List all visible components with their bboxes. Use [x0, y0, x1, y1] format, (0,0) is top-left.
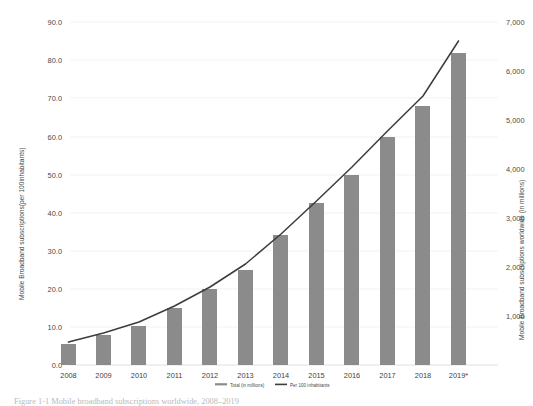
- y2-tick-5000: 5,000: [506, 116, 525, 125]
- y-tick-80: 80.0: [48, 56, 62, 65]
- y-tick-70: 70.0: [48, 94, 62, 103]
- x-tick-2009: 2009: [95, 371, 111, 380]
- bar-2014: [273, 235, 288, 365]
- bar-2013: [238, 270, 253, 365]
- y-tick-90: 90.0: [48, 18, 62, 27]
- bar-series-total: [61, 53, 466, 365]
- x-tick-2017: 2017: [379, 371, 395, 380]
- y-tick-40: 40.0: [48, 209, 62, 218]
- y-tick-20: 20.0: [48, 285, 62, 294]
- x-tick-2013: 2013: [237, 371, 253, 380]
- x-tick-2010: 2010: [131, 371, 147, 380]
- bar-2016: [344, 175, 359, 365]
- y-axis-left-ticks: 90.0 80.0 70.0 60.0 50.0 40.0 30.0 20.0 …: [48, 18, 62, 370]
- chart-legend: Total (in millions) Per 100 inhabitants: [215, 383, 330, 388]
- x-tick-2012: 2012: [202, 371, 218, 380]
- legend-swatch-total: [215, 383, 227, 385]
- y2-tick-4000: 4,000: [506, 165, 525, 174]
- x-tick-2018: 2018: [415, 371, 431, 380]
- x-tick-2011: 2011: [167, 371, 183, 380]
- x-tick-2019: 2019*: [449, 371, 468, 380]
- bar-2010: [131, 326, 146, 365]
- chart-figure: 90.0 80.0 70.0 60.0 50.0 40.0 30.0 20.0 …: [0, 0, 533, 406]
- bar-2015: [309, 203, 324, 365]
- bar-2009: [96, 335, 111, 365]
- bar-2012: [202, 289, 217, 365]
- figure-caption: Figure 1-1 Mobile broadband subscription…: [14, 396, 514, 406]
- bar-2008: [61, 344, 76, 365]
- y-tick-10: 10.0: [48, 323, 62, 332]
- x-tick-2016: 2016: [344, 371, 360, 380]
- legend-label-total: Total (in millions): [230, 383, 265, 388]
- y2-tick-6000: 6,000: [506, 67, 525, 76]
- bar-2018: [415, 106, 430, 365]
- y-axis-right-title: Mobile Broadband subscriptions worldwide…: [518, 180, 526, 340]
- mobile-broadband-chart: 90.0 80.0 70.0 60.0 50.0 40.0 30.0 20.0 …: [0, 0, 533, 392]
- y2-tick-7000: 7,000: [506, 18, 525, 27]
- y-tick-60: 60.0: [48, 133, 62, 142]
- x-tick-2014: 2014: [273, 371, 289, 380]
- x-tick-2015: 2015: [308, 371, 324, 380]
- line-series-per-100-inhabitants: [69, 41, 459, 342]
- y-tick-50: 50.0: [48, 171, 62, 180]
- bar-2017: [380, 137, 395, 365]
- x-tick-2008: 2008: [60, 371, 76, 380]
- y-axis-left-title: Mobile Broadband subscriptions(per 100in…: [18, 148, 26, 300]
- bar-2011: [167, 308, 182, 365]
- legend-label-per-100: Per 100 inhabitants: [290, 383, 330, 388]
- bar-2019: [451, 53, 466, 365]
- x-axis-ticks: 2008 2009 2010 2011 2012 2013 2014 2015 …: [60, 371, 468, 380]
- y-tick-0: 0.0: [52, 361, 62, 370]
- y-tick-30: 30.0: [48, 247, 62, 256]
